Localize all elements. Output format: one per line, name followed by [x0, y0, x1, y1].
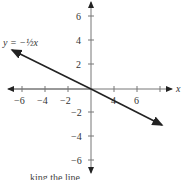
x-axis-label: x — [175, 83, 181, 94]
y-tick-label: 6 — [76, 11, 81, 22]
footer-text-partial: king the line — [30, 172, 80, 180]
x-tick-label: 6 — [134, 95, 139, 106]
y-tick-label: 2 — [76, 59, 81, 70]
y-tick-label: −4 — [71, 131, 82, 142]
coordinate-plane: −6 −4 −2 4 6 x 6 4 2 −2 −4 −6 y = −½x — [0, 0, 185, 180]
x-tick-label: −6 — [14, 95, 25, 106]
line-series — [91, 89, 162, 125]
y-tick-label: −2 — [71, 107, 82, 118]
x-tick-label: −4 — [37, 95, 48, 106]
y-tick-label: 4 — [76, 35, 81, 46]
equation-label: y = −½x — [2, 37, 38, 48]
y-tick-label: −6 — [71, 155, 82, 166]
x-tick-label: −2 — [60, 95, 71, 106]
